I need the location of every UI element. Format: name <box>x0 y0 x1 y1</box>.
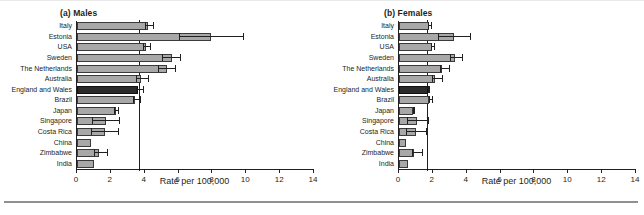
panel-a-plot-area: 02468101214 <box>76 21 313 169</box>
error-bar-cap <box>162 54 163 61</box>
category-label: China <box>376 139 394 147</box>
bar-row <box>399 139 636 147</box>
bar <box>77 43 146 51</box>
error-bar-cap <box>175 65 176 72</box>
error-bar-cap <box>449 65 450 72</box>
bar-row <box>77 75 314 83</box>
error-bar-cap <box>426 128 427 135</box>
x-axis-tick <box>110 169 111 173</box>
error-bar-cap <box>119 117 120 124</box>
bar <box>77 86 138 94</box>
bar-row <box>399 86 636 94</box>
error-bar-cap <box>422 149 423 156</box>
category-label: Sweden <box>47 54 72 62</box>
bar-row <box>399 117 636 125</box>
panel-females: (b) Females ItalyEstoniaUSASwedenThe Net… <box>322 0 644 200</box>
bar-row <box>77 33 314 41</box>
panel-a-title: (a) Males <box>60 8 97 18</box>
x-axis-tick <box>567 169 568 173</box>
x-axis-tick <box>245 169 246 173</box>
bar-row <box>399 160 636 168</box>
bar-row <box>77 96 314 104</box>
bar-row <box>77 128 314 136</box>
category-label: Estonia <box>371 33 394 41</box>
category-label: USA <box>58 43 72 51</box>
category-label: Italy <box>59 22 72 30</box>
error-bar-line <box>158 68 175 69</box>
bar <box>77 139 91 147</box>
bar <box>77 160 94 168</box>
x-axis-tick <box>533 169 534 173</box>
panel-b-plot-area: 02468101214 <box>398 21 635 169</box>
error-bar-line <box>162 57 181 58</box>
x-axis-tick <box>432 169 433 173</box>
bar <box>77 107 116 115</box>
error-bar-cap <box>442 75 443 82</box>
error-bar-cap <box>91 128 92 135</box>
error-bar-cap <box>450 54 451 61</box>
bar-row <box>77 160 314 168</box>
bar-row <box>77 117 314 125</box>
error-bar-cap <box>158 65 159 72</box>
figure-root: (a) Males ItalyEstoniaUSASwedenThe Nethe… <box>0 0 644 215</box>
x-axis-tick <box>500 169 501 173</box>
error-bar-cap <box>153 22 154 29</box>
error-bar-cap <box>145 22 146 29</box>
category-label: Japan <box>375 107 394 115</box>
bar-row <box>399 65 636 73</box>
error-bar-cap <box>438 33 439 40</box>
x-axis-tick <box>398 169 399 173</box>
error-bar-cap <box>429 96 430 103</box>
error-bar-cap <box>406 128 407 135</box>
bar <box>77 65 167 73</box>
error-bar-cap <box>143 43 144 50</box>
bar <box>399 43 432 51</box>
error-bar-line <box>94 152 108 153</box>
error-bar-line <box>412 152 422 153</box>
x-axis-tick <box>178 169 179 173</box>
x-axis-tick <box>635 169 636 173</box>
bar <box>399 86 428 94</box>
category-label: Costa Rica <box>360 128 394 136</box>
category-label: India <box>379 160 394 168</box>
bar-row <box>399 96 636 104</box>
error-bar-cap <box>148 75 149 82</box>
bar <box>77 75 141 83</box>
panel-males: (a) Males ItalyEstoniaUSASwedenThe Nethe… <box>0 0 322 200</box>
error-bar-cap <box>414 107 415 114</box>
error-bar-line <box>440 68 449 69</box>
bar <box>399 54 455 62</box>
bar-row <box>77 149 314 157</box>
bar <box>77 22 148 30</box>
error-bar-cap <box>428 117 429 124</box>
error-bar-cap <box>118 107 119 114</box>
error-bar-cap <box>470 33 471 40</box>
error-bar-cap <box>136 75 137 82</box>
error-bar-cap <box>143 86 144 93</box>
bar <box>77 96 135 104</box>
error-bar-cap <box>440 65 441 72</box>
error-bar-cap <box>243 33 244 40</box>
error-bar-line <box>136 89 143 90</box>
bar-row <box>399 75 636 83</box>
panel-b-category-labels: ItalyEstoniaUSASwedenThe NetherlandsAust… <box>322 21 398 169</box>
category-label: USA <box>380 43 394 51</box>
bar <box>399 75 435 83</box>
bar-row <box>399 33 636 41</box>
bar-row <box>77 107 314 115</box>
category-label: Brazil <box>54 96 72 104</box>
error-bar-line <box>133 99 140 100</box>
bar-row <box>399 43 636 51</box>
category-label: England and Wales <box>12 86 72 94</box>
error-bar-line <box>145 25 153 26</box>
error-bar-line <box>432 78 442 79</box>
error-bar-cap <box>180 54 181 61</box>
error-bar-line <box>438 36 470 37</box>
bar <box>77 54 172 62</box>
bar <box>399 65 442 73</box>
bottom-rule <box>4 201 638 203</box>
error-bar-cap <box>133 96 134 103</box>
category-label: Costa Rica <box>38 128 72 136</box>
error-bar-cap <box>462 54 463 61</box>
error-bar-cap <box>412 149 413 156</box>
